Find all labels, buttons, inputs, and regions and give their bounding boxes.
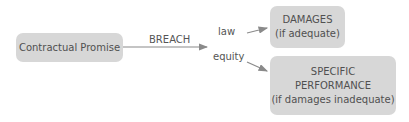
equity-arrow — [247, 62, 267, 71]
breach-label: BREACH — [149, 34, 190, 45]
specific-performance-line1: SPECIFIC — [311, 65, 355, 79]
specific-performance-condition: (if damages inadequate) — [271, 93, 394, 107]
contractual-promise-label: Contractual Promise — [19, 41, 120, 55]
contractual-promise-node: Contractual Promise — [16, 33, 123, 62]
law-label: law — [218, 26, 235, 37]
damages-condition: (if adequate) — [275, 27, 340, 41]
equity-label: equity — [213, 51, 244, 62]
law-arrow — [247, 28, 267, 33]
damages-node: DAMAGES (if adequate) — [270, 6, 345, 48]
specific-performance-node: SPECIFIC PERFORMANCE (if damages inadequ… — [270, 56, 396, 115]
specific-performance-line2: PERFORMANCE — [295, 79, 371, 93]
damages-title: DAMAGES — [282, 13, 332, 27]
